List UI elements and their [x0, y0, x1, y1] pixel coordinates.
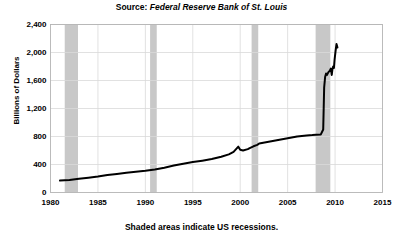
grid-lines-group — [51, 25, 383, 193]
chart-footnote: Shaded areas indicate US recessions. — [0, 222, 403, 232]
x-tick-label: 2015 — [374, 198, 392, 207]
chart-container: Source: Federal Reserve Bank of St. Loui… — [0, 0, 403, 239]
x-tick-label: 1995 — [184, 198, 202, 207]
x-tick-label: 2000 — [231, 198, 249, 207]
chart-plot-area: 04008001,2001,6002,0002,400 198019851990… — [0, 0, 403, 239]
series-path — [60, 44, 337, 181]
x-tick-label: 1985 — [89, 198, 107, 207]
y-tick-label: 1,200 — [26, 104, 47, 113]
y-tick-label: 400 — [33, 160, 47, 169]
x-tick-label: 1980 — [42, 198, 60, 207]
x-tick-label: 2010 — [326, 198, 344, 207]
y-tick-label: 0 — [42, 188, 47, 197]
x-tick-label: 1990 — [136, 198, 154, 207]
data-series-line — [60, 44, 337, 181]
y-tick-label: 2,000 — [26, 48, 47, 57]
x-tick-labels-group: 19801985199019952000200520102015 — [42, 198, 392, 207]
y-tick-labels-group: 04008001,2001,6002,0002,400 — [26, 20, 47, 197]
x-tick-label: 2005 — [279, 198, 297, 207]
y-tick-label: 2,400 — [26, 20, 47, 29]
y-tick-label: 800 — [33, 132, 47, 141]
y-tick-label: 1,600 — [26, 76, 47, 85]
